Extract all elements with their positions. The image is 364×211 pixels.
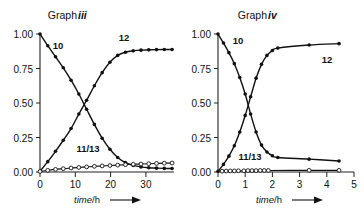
data-point [242,169,246,173]
chart-title-numeral: iv [268,9,278,21]
data-point [243,92,247,96]
arrow-right-icon [292,197,323,204]
data-point [276,156,280,160]
data-point [155,48,159,52]
data-point [85,165,89,169]
data-point [108,164,112,168]
series-label-12: 12 [322,54,333,65]
series-curve-12 [40,49,172,171]
data-point [216,170,220,174]
data-point [162,167,166,171]
x-axis-label-unit: /h [274,194,282,205]
data-point [61,167,65,171]
data-point [77,112,81,116]
data-point [227,51,231,55]
data-point [222,41,226,45]
data-point [155,162,159,166]
data-point [228,169,232,173]
data-point [237,169,241,173]
data-point [38,32,42,36]
x-ticklabel-1: 1 [242,179,248,190]
data-point [227,154,231,158]
data-point [307,157,311,161]
x-ticklabel-3: 3 [297,179,303,190]
data-point [232,169,236,173]
data-point [307,168,311,172]
x-ticklabel-1: 10 [70,179,82,190]
data-point [147,48,151,52]
data-point [69,127,73,131]
data-point [116,54,120,58]
data-point [54,150,58,154]
data-point [266,169,270,173]
data-point [46,160,50,164]
x-ticklabel-2: 2 [270,179,276,190]
data-point [337,42,341,46]
series-label-11-13: 11/13 [238,151,261,162]
data-point [162,161,166,165]
data-point [243,114,247,118]
data-point [147,162,151,166]
data-point [262,169,266,173]
chart-title-prefix: Graph [48,9,77,21]
y-ticklabel-4: 1.00 [14,29,34,40]
plot-svg-graph-iii: Graph iii 0.00 0.25 0.50 0.75 1.00 0 10 … [0,0,182,211]
y-ticklabel-4: 1.00 [192,29,212,40]
chart-title-numeral: iii [78,9,88,21]
data-point [233,62,237,66]
data-point [246,169,250,173]
data-point [238,76,242,80]
data-point [62,138,66,142]
data-point [216,32,220,36]
data-point [260,63,264,67]
y-ticklabel-3: 0.75 [14,64,34,75]
data-point [271,49,275,53]
data-point [147,166,151,170]
data-point [162,48,166,52]
data-point [170,167,174,171]
data-point [276,46,280,50]
data-point [124,163,128,167]
series-markers-10 [38,32,174,170]
data-point [131,162,135,166]
y-ticklabel-2: 0.50 [14,98,34,109]
data-point [62,66,66,70]
data-point [254,76,258,80]
data-point [69,78,73,82]
data-point [260,143,264,147]
data-point [233,144,237,148]
data-point [92,164,96,168]
data-point [170,161,174,165]
data-point [337,168,341,172]
x-ticklabel-5: 5 [351,179,357,190]
data-point [38,170,42,174]
series-label-10: 10 [233,35,244,46]
data-point [337,159,341,163]
data-point [100,136,104,140]
data-point [224,169,228,173]
x-axis-label-italic: time [256,194,274,205]
data-point [249,112,253,116]
data-point [108,147,112,151]
chart-title-prefix: Graph [238,9,267,21]
data-point [265,54,269,58]
x-ticklabel-3: 30 [140,179,152,190]
x-ticklabel-0: 0 [215,179,221,190]
data-point [249,95,253,99]
x-axis-label-unit: /h [92,194,100,205]
series-curve-10 [40,34,172,169]
data-point [77,166,81,170]
y-ticklabel-0: 0.00 [192,167,212,178]
data-point [54,55,58,59]
series-label-11-13: 11/13 [76,143,99,154]
data-point [250,169,254,173]
data-point [124,50,128,54]
figure-two-kinetics-plots: Graph iii 0.00 0.25 0.50 0.75 1.00 0 10 … [0,0,364,211]
data-point [116,163,120,167]
data-point [258,169,262,173]
data-point [69,166,73,170]
x-ticklabel-0: 0 [37,179,43,190]
arrow-right-icon [110,197,141,204]
data-point [307,43,311,47]
data-point [220,169,224,173]
